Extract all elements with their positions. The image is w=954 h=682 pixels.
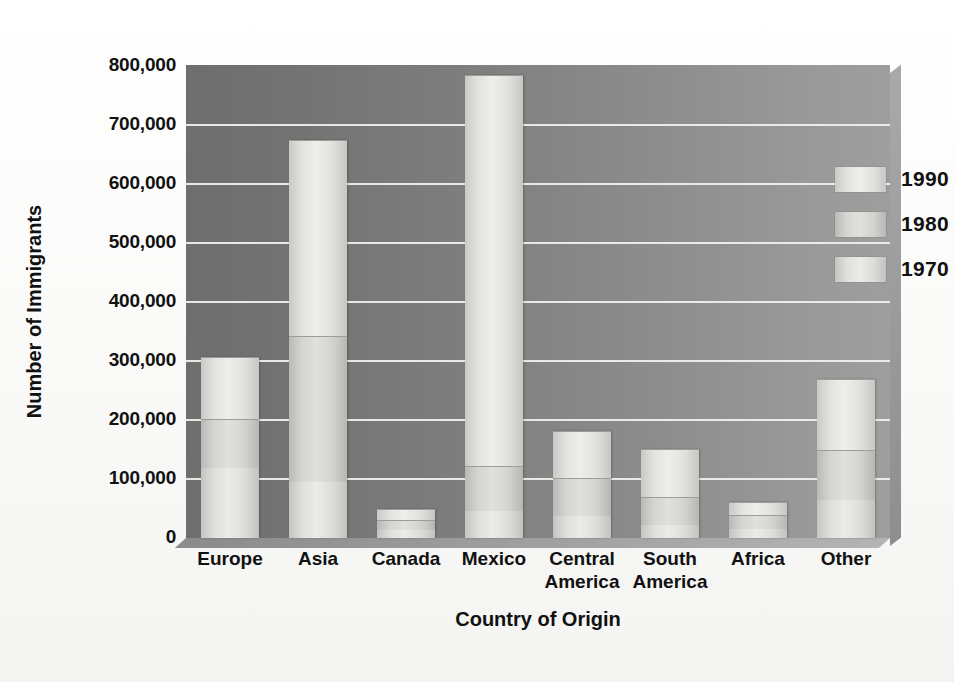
bar-segment-europe-1980[interactable] [201, 419, 259, 468]
legend-item-1990[interactable]: 1990 [835, 161, 954, 197]
bar-segment-south-america-1970[interactable] [641, 449, 699, 497]
bar-segment-mexico-1990[interactable] [465, 511, 523, 538]
bar-segment-africa-1980[interactable] [729, 515, 787, 528]
plot-3d-side-face [890, 64, 901, 546]
x-tick-asia: Asia [274, 547, 362, 570]
bar-africa[interactable] [729, 502, 787, 538]
bar-segment-africa-1990[interactable] [729, 529, 787, 538]
bar-europe[interactable] [201, 357, 259, 538]
bar-segment-central-america-1980[interactable] [553, 478, 611, 516]
bar-segment-south-america-1980[interactable] [641, 497, 699, 525]
bar-segment-other-1970[interactable] [817, 379, 875, 449]
legend-item-1970[interactable]: 1970 [835, 251, 954, 287]
gridline-700000 [186, 124, 890, 126]
legend-swatch-1970 [835, 257, 886, 282]
legend-swatch-1990 [835, 167, 886, 192]
bar-segment-mexico-1980[interactable] [465, 466, 523, 511]
x-axis-tick-labels: EuropeAsiaCanadaMexicoCentral AmericaSou… [186, 547, 890, 603]
bar-segment-canada-1970[interactable] [377, 509, 435, 520]
bar-segment-canada-1990[interactable] [377, 530, 435, 538]
bar-segment-south-america-1990[interactable] [641, 525, 699, 538]
x-tick-canada: Canada [362, 547, 450, 570]
bar-segment-central-america-1990[interactable] [553, 516, 611, 538]
bar-segment-asia-1980[interactable] [289, 336, 347, 482]
bar-canada[interactable] [377, 509, 435, 538]
bar-segment-canada-1980[interactable] [377, 520, 435, 529]
bar-segment-other-1990[interactable] [817, 500, 875, 538]
bar-segment-central-america-1970[interactable] [553, 431, 611, 478]
x-tick-africa: Africa [714, 547, 802, 570]
bar-segment-mexico-1970[interactable] [465, 75, 523, 466]
legend-item-1980[interactable]: 1980 [835, 206, 954, 242]
legend-label-1980: 1980 [901, 212, 949, 236]
bar-segment-europe-1970[interactable] [201, 357, 259, 419]
bar-central-america[interactable] [553, 431, 611, 538]
y-tick-0: 0 [0, 526, 176, 548]
legend-label-1990: 1990 [901, 167, 949, 191]
bar-segment-asia-1970[interactable] [289, 140, 347, 336]
bar-segment-other-1980[interactable] [817, 450, 875, 500]
bar-mexico[interactable] [465, 75, 523, 538]
y-tick-800000: 800,000 [0, 54, 176, 76]
x-tick-mexico: Mexico [450, 547, 538, 570]
x-tick-central-america: Central America [538, 547, 626, 593]
bar-segment-asia-1990[interactable] [289, 482, 347, 538]
chart-legend: 1990 1980 1970 [835, 161, 954, 296]
legend-swatch-1980 [835, 212, 886, 237]
y-axis-title: Number of Immigrants [23, 112, 46, 512]
legend-label-1970: 1970 [901, 257, 949, 281]
bar-segment-europe-1990[interactable] [201, 468, 259, 538]
x-tick-europe: Europe [186, 547, 274, 570]
bar-segment-africa-1970[interactable] [729, 502, 787, 515]
plot-area: 1990 1980 1970 [186, 65, 890, 538]
x-tick-other: Other [802, 547, 890, 570]
bar-south-america[interactable] [641, 449, 699, 538]
bar-other[interactable] [817, 379, 875, 538]
chart-figure: 800,000 700,000 600,000 500,000 400,000 … [0, 0, 954, 682]
bar-asia[interactable] [289, 140, 347, 538]
x-tick-south-america: South America [626, 547, 714, 593]
x-axis-title: Country of Origin [186, 608, 890, 631]
